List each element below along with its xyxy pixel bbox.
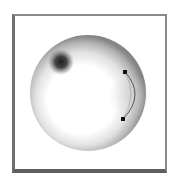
diagram-canvas: [0, 0, 178, 180]
arc-end-handle[interactable]: [121, 117, 125, 121]
arc-start-handle[interactable]: [123, 70, 127, 74]
dark-spot: [48, 49, 74, 75]
rim-shade: [108, 74, 152, 118]
sphere-diagram: [0, 0, 178, 180]
